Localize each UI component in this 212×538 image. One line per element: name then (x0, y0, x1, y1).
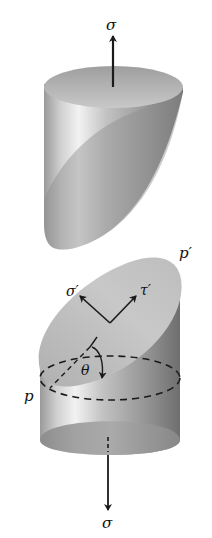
tau-prime-label: τ′ (140, 282, 152, 298)
sigma-bottom-label: σ (102, 514, 113, 532)
theta-label: θ (81, 362, 90, 378)
sigma-top-label: σ (106, 16, 117, 34)
lower-inner-bottom (40, 421, 180, 455)
p-label: p (24, 387, 34, 405)
upper-cylinder-piece (44, 66, 183, 250)
stress-diagram: σ θ σ′ τ′ p p′ σ (0, 0, 212, 538)
sigma-prime-label: σ′ (66, 283, 80, 299)
p-prime-label: p′ (179, 244, 193, 262)
